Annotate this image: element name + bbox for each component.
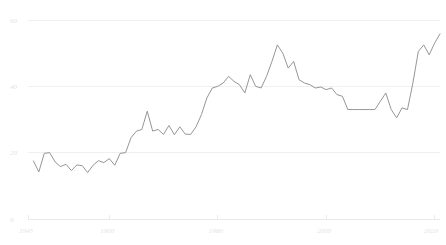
- y-tick-label-40: 40: [10, 83, 18, 91]
- x-tick-label-1945: 1945: [19, 227, 34, 235]
- x-tick-labels-group: 19451960198020002020: [19, 227, 439, 235]
- x-tick-label-1980: 1980: [209, 227, 224, 235]
- data-line-series-1: [33, 34, 440, 173]
- x-tick-label-1960: 1960: [100, 227, 115, 235]
- x-tick-label-2020: 2020: [424, 227, 439, 235]
- y-tick-label-20: 20: [10, 149, 18, 157]
- x-tick-label-2000: 2000: [317, 227, 332, 235]
- line-chart: 0204060 19451960198020002020: [0, 0, 446, 245]
- chart-canvas: 0204060 19451960198020002020: [0, 0, 446, 245]
- plot-area: [33, 34, 440, 173]
- gridlines-group: [28, 20, 440, 219]
- y-tick-labels-group: 0204060: [10, 17, 18, 224]
- y-tick-label-0: 0: [10, 216, 14, 224]
- x-tickmarks-group: [28, 215, 435, 219]
- y-tick-label-60: 60: [10, 17, 18, 25]
